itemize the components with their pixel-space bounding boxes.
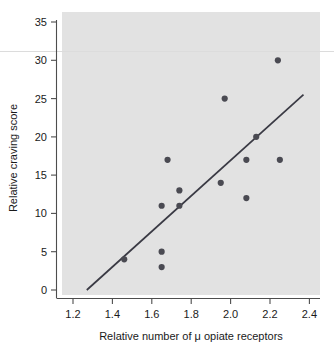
data-point <box>243 157 249 163</box>
data-point <box>277 157 283 163</box>
data-point <box>176 203 182 209</box>
x-tick-label: 2.2 <box>262 308 277 320</box>
data-point <box>222 95 228 101</box>
data-point <box>243 195 249 201</box>
data-point <box>159 264 165 270</box>
y-tick-label: 30 <box>35 54 47 66</box>
data-point <box>176 187 182 193</box>
data-point <box>218 180 224 186</box>
data-point <box>159 249 165 255</box>
x-axis-title: Relative number of μ opiate receptors <box>99 330 283 342</box>
chart-canvas: 35 30 25 20 15 10 5 0 1.2 1.4 1.6 <box>0 0 334 354</box>
x-tick-label: 1.8 <box>184 308 199 320</box>
y-tick-label: 10 <box>35 207 47 219</box>
y-tick-label: 0 <box>41 284 47 296</box>
data-point <box>159 203 165 209</box>
y-tick-label: 15 <box>35 169 47 181</box>
x-tick-label: 2.0 <box>223 308 238 320</box>
data-point <box>275 57 281 63</box>
y-tick-label: 5 <box>41 246 47 258</box>
plot-area-background <box>62 12 320 295</box>
scatter-chart: 35 30 25 20 15 10 5 0 1.2 1.4 1.6 <box>0 0 334 354</box>
data-point <box>164 157 170 163</box>
x-tick-label: 1.6 <box>144 308 159 320</box>
y-tick-label: 20 <box>35 131 47 143</box>
y-axis-title: Relative craving score <box>7 104 19 212</box>
y-tick-label: 25 <box>35 93 47 105</box>
x-tick-label: 2.4 <box>302 308 317 320</box>
x-tick-label: 1.2 <box>65 308 80 320</box>
y-tick-label: 35 <box>35 16 47 28</box>
data-point <box>121 256 127 262</box>
x-tick-label: 1.4 <box>105 308 120 320</box>
data-point <box>253 134 259 140</box>
